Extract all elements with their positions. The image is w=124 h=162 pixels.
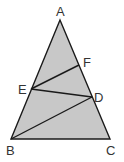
label-d: D <box>94 90 103 105</box>
label-f: F <box>83 55 91 70</box>
triangle-abc <box>11 20 110 139</box>
label-b: B <box>6 143 15 158</box>
triangle-diagram: A B C D E F <box>0 0 124 162</box>
label-a: A <box>56 4 65 19</box>
label-c: C <box>106 143 115 158</box>
label-e: E <box>18 82 27 97</box>
